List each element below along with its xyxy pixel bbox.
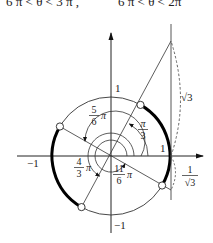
point-11pi-over-6 bbox=[159, 182, 166, 189]
label-4pi-over-3: 4 3 π bbox=[74, 156, 92, 179]
label-5pi-over-6-num: 5 bbox=[92, 104, 97, 115]
header-cutoff-text: 6 π < θ < 3 π , 6 π < θ < 2π bbox=[6, 0, 182, 9]
point-pi-over-3 bbox=[137, 101, 144, 108]
label-5pi-over-6-den: 6 bbox=[92, 116, 97, 127]
label-sqrt3: √3 bbox=[181, 91, 193, 103]
label-pi-over-3-num: π bbox=[140, 118, 146, 129]
label-one-over-sqrt3-num: 1 bbox=[188, 164, 193, 175]
unit-circle-diagram: 6 π < θ < 3 π , 6 π < θ < 2π 1 −1 1 −1 π… bbox=[0, 0, 213, 243]
dashed-arc-inv-sqrt3 bbox=[171, 156, 176, 190]
label-y-pos-one: 1 bbox=[115, 82, 121, 94]
label-11pi-over-6-num: 11 bbox=[114, 163, 124, 174]
label-one-over-sqrt3: 1 √3 bbox=[182, 164, 198, 188]
label-4pi-over-3-den: 3 bbox=[77, 168, 82, 179]
label-x-neg-one: −1 bbox=[27, 157, 39, 169]
label-pi-over-3-den: 3 bbox=[141, 130, 146, 141]
label-y-neg-one: −1 bbox=[114, 219, 126, 231]
header-text-left: 6 π < θ < 3 π , bbox=[6, 0, 79, 9]
header-text-right: 6 π < θ < 2π bbox=[118, 0, 182, 9]
label-11pi-over-6-den: 6 bbox=[117, 175, 122, 186]
point-4pi-over-3 bbox=[78, 204, 85, 211]
label-4pi-over-3-num: 4 bbox=[77, 156, 82, 167]
label-11pi-over-6-pi: π bbox=[127, 169, 133, 180]
label-x-pos-one: 1 bbox=[160, 142, 166, 154]
label-5pi-over-6: 5 6 π bbox=[89, 104, 107, 127]
point-5pi-over-6 bbox=[56, 123, 63, 130]
dashed-arc-sqrt3 bbox=[171, 41, 181, 156]
label-pi-over-3: π 3 bbox=[138, 118, 148, 141]
label-one-over-sqrt3-den: √3 bbox=[185, 177, 196, 188]
label-5pi-over-6-pi: π bbox=[101, 110, 107, 121]
